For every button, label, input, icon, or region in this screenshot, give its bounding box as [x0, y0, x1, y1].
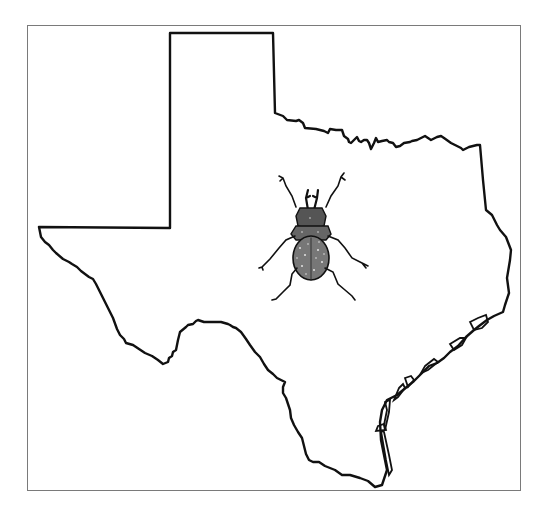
- beetle-antenna-left: [279, 176, 296, 207]
- beetle-leg-hind-right: [325, 268, 355, 300]
- barrier-islands: [376, 315, 488, 475]
- texas-map: [0, 0, 548, 515]
- beetle-mandibles: [306, 190, 318, 210]
- beetle-leg-hind-left: [272, 268, 297, 300]
- beetle-leg-front-right: [328, 236, 368, 268]
- beetle-illustration: [259, 173, 368, 300]
- texas-outline: [39, 33, 511, 487]
- beetle-antenna-right: [326, 173, 345, 207]
- beetle-leg-front-left: [259, 236, 295, 270]
